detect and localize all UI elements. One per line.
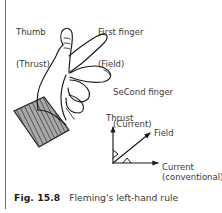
label-thumb: Thumb (Thrust) [16,6,50,90]
label-thumb-line2: (Thrust) [16,59,50,70]
figure-caption-text: Fleming's left-hand rule [69,192,178,203]
label-thumb-line1: Thumb [16,27,50,38]
figure-number: Fig. 15.8 [14,192,60,203]
label-second-finger-line1: SeCond finger [113,87,173,98]
figure-container: Thumb (Thrust) First finger (Field) SeCo… [0,0,222,213]
axis-label-thrust: Thrust [106,113,133,124]
axis-label-current-note: (conventional) [162,172,222,183]
right-angle-marker-upper [113,150,118,158]
sleeve-cuff-icon [12,89,72,151]
figure-caption: Fig. 15.8Fleming's left-hand rule [14,192,218,203]
right-angle-marker-lower [123,158,131,163]
axis-label-field: Field [154,128,174,139]
axis-label-current: Current [162,162,194,173]
label-first-finger-line1: First finger [98,27,143,38]
